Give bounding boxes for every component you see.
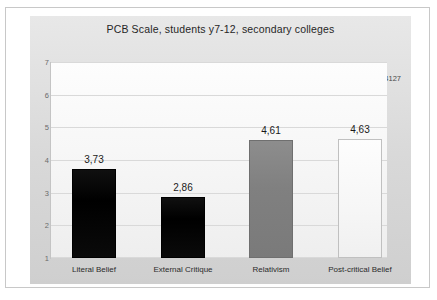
x-label-post-critical-belief: Post-critical Belief [312, 265, 408, 274]
x-label-external-critique: External Critique [135, 265, 231, 274]
bar-external-critique[interactable] [161, 197, 205, 258]
x-axis-labels: Literal Belief External Critique Relativ… [51, 259, 387, 284]
y-tick-4: 4 [33, 156, 49, 165]
bar-literal-belief[interactable] [72, 169, 116, 258]
y-tick-1: 1 [33, 254, 49, 263]
y-tick-5: 5 [33, 123, 49, 132]
y-tick-3: 3 [33, 188, 49, 197]
plot-area: 3,73 2,86 4,61 4,63 [51, 62, 387, 258]
y-tick-7: 7 [33, 58, 49, 67]
bar-value-post-critical-belief: 4,63 [325, 124, 395, 135]
gridline-7 [51, 62, 387, 63]
chart-title: PCB Scale, students y7-12, secondary col… [30, 23, 411, 35]
bar-value-external-critique: 2,86 [148, 182, 218, 193]
bar-post-critical-belief[interactable] [338, 139, 382, 258]
y-tick-6: 6 [33, 90, 49, 99]
chart-container: PCB Scale, students y7-12, secondary col… [30, 16, 411, 284]
bar-value-relativism: 4,61 [236, 125, 306, 136]
y-tick-2: 2 [33, 221, 49, 230]
y-axis-ticks: 7 6 5 4 3 2 1 [30, 62, 49, 258]
document-frame: PCB Scale, students y7-12, secondary col… [5, 7, 430, 288]
chart-page: PCB Scale, students y7-12, secondary col… [0, 0, 437, 300]
bar-value-literal-belief: 3,73 [59, 154, 129, 165]
bar-relativism[interactable] [249, 140, 293, 258]
gridline-6 [51, 95, 387, 96]
x-label-literal-belief: Literal Belief [46, 265, 142, 274]
x-label-relativism: Relativism [223, 265, 319, 274]
